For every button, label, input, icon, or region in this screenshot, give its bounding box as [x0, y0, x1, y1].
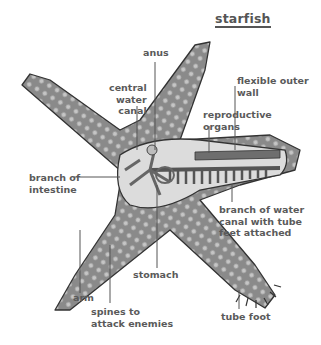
- label-branch-of-water-canal: branch of water canal with tube feet att…: [219, 204, 304, 239]
- label-line: attack enemies: [91, 318, 173, 330]
- label-branch-of-intestine: branch of intestine: [29, 172, 80, 195]
- label-line: branch of: [29, 172, 80, 184]
- label-line: central: [109, 82, 147, 94]
- label-stomach: stomach: [133, 269, 178, 281]
- label-line: spines to: [91, 306, 173, 318]
- label-reproductive-organs: reproductive organs: [203, 109, 272, 132]
- reproductive-organs: [195, 150, 280, 160]
- label-line: water: [109, 94, 147, 106]
- label-line: wall: [237, 87, 309, 99]
- label-spines: spines to attack enemies: [91, 306, 173, 329]
- label-line: intestine: [29, 184, 80, 196]
- label-line: feet attached: [219, 227, 304, 239]
- label-line: canal: [109, 105, 147, 117]
- label-line: reproductive: [203, 109, 272, 121]
- label-line: branch of water: [219, 204, 304, 216]
- label-arm: arm: [73, 292, 94, 304]
- label-flexible-outer-wall: flexible outer wall: [237, 75, 309, 98]
- label-line: flexible outer: [237, 75, 309, 87]
- label-anus: anus: [143, 47, 169, 59]
- label-tube-foot: tube foot: [221, 311, 271, 323]
- label-line: canal with tube: [219, 216, 304, 228]
- label-central-water-canal: central water canal: [109, 82, 147, 117]
- label-line: organs: [203, 121, 272, 133]
